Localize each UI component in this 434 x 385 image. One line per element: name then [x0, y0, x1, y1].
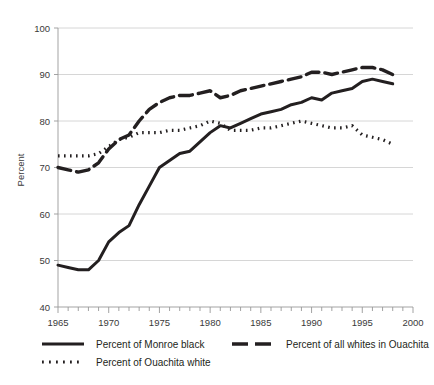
- y-tick-label-50: 50: [39, 255, 50, 266]
- series-line-1: [58, 68, 393, 173]
- y-tick-label-90: 90: [39, 69, 50, 80]
- x-tick-label-2000: 2000: [402, 317, 423, 328]
- line-chart: 405060708090100 196519701975198019851990…: [0, 0, 434, 385]
- x-tick-label-1985: 1985: [250, 317, 271, 328]
- y-tick-label-100: 100: [34, 23, 50, 34]
- legend-label-0: Percent of Monroe black: [96, 339, 205, 350]
- gridlines: [58, 28, 413, 261]
- y-tick-label-70: 70: [39, 162, 50, 173]
- chart-container: 405060708090100 196519701975198019851990…: [0, 0, 434, 385]
- x-tick-label-1965: 1965: [47, 317, 68, 328]
- x-tick-label-1970: 1970: [98, 317, 119, 328]
- y-tick-label-40: 40: [39, 302, 50, 313]
- legend-label-1: Percent of all whites in Ouachita: [286, 339, 429, 350]
- x-tick-label-1980: 1980: [200, 317, 221, 328]
- x-tick-label-1975: 1975: [149, 317, 170, 328]
- series-line-0: [58, 79, 393, 270]
- legend-label-2: Percent of Ouachita white: [96, 357, 211, 368]
- series-lines: [58, 68, 393, 270]
- x-tick-label-1990: 1990: [301, 317, 322, 328]
- y-axis-title: Percent: [15, 153, 26, 186]
- chart-legend: Percent of Monroe blackPercent of all wh…: [42, 339, 429, 368]
- y-tick-label-60: 60: [39, 209, 50, 220]
- x-tick-label-1995: 1995: [352, 317, 373, 328]
- x-axis: 19651970197519801985199019952000: [47, 307, 423, 328]
- y-tick-label-80: 80: [39, 116, 50, 127]
- y-axis: 405060708090100: [34, 23, 58, 313]
